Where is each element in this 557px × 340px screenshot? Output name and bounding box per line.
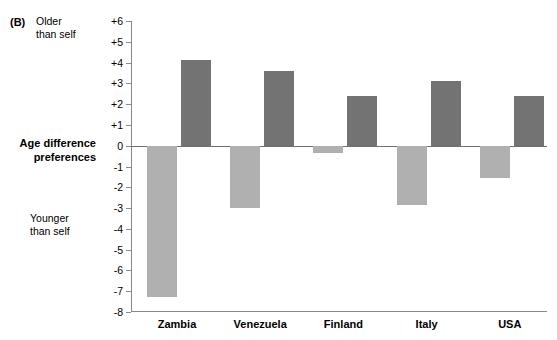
- y-tick-label: +4: [111, 57, 123, 69]
- bar: [181, 60, 211, 145]
- y-tick-label: -8: [114, 306, 123, 318]
- y-tick-mark: [126, 63, 131, 64]
- y-tick-mark: [126, 208, 131, 209]
- bar-group: [474, 21, 547, 312]
- older-annotation-line1: Older: [36, 15, 76, 28]
- y-tick-mark: [126, 104, 131, 105]
- bar: [230, 146, 260, 208]
- bar-group: [141, 21, 214, 312]
- bar-group: [307, 21, 380, 312]
- older-than-self-annotation: Older than self: [36, 15, 76, 41]
- y-tick-mark: [126, 270, 131, 271]
- y-tick-mark: [126, 229, 131, 230]
- bar: [514, 96, 544, 146]
- y-tick-label: +5: [111, 36, 123, 48]
- category-label: Italy: [416, 318, 438, 330]
- older-annotation-line2: than self: [36, 28, 76, 41]
- younger-than-self-annotation: Younger than self: [30, 212, 70, 238]
- y-tick-label: -6: [114, 264, 123, 276]
- bar: [147, 146, 177, 298]
- bar: [480, 146, 510, 178]
- category-label: Zambia: [158, 318, 197, 330]
- category-label: USA: [498, 318, 521, 330]
- bar-group: [224, 21, 297, 312]
- y-tick-mark: [126, 21, 131, 22]
- younger-annotation-line2: than self: [30, 225, 70, 238]
- y-tick-label: 0: [117, 140, 123, 152]
- bar: [397, 146, 427, 205]
- y-tick-label: -4: [114, 223, 123, 235]
- y-tick-label: +6: [111, 15, 123, 27]
- y-tick-mark: [126, 125, 131, 126]
- bar-group: [391, 21, 464, 312]
- y-tick-label: -2: [114, 181, 123, 193]
- y-axis-title-line2: preferences: [0, 150, 96, 164]
- y-tick-mark: [126, 250, 131, 251]
- y-tick-label: +3: [111, 77, 123, 89]
- bar: [264, 71, 294, 146]
- y-axis-title-line1: Age difference: [0, 136, 96, 150]
- plot-area: +6+5+4+3+2+10-1-2-3-4-5-6-7-8: [131, 21, 547, 312]
- bar: [347, 96, 377, 146]
- y-axis-title: Age difference preferences: [0, 136, 96, 164]
- y-tick-label: +1: [111, 119, 123, 131]
- category-label: Finland: [324, 318, 363, 330]
- y-tick-label: -5: [114, 244, 123, 256]
- y-tick-mark: [126, 291, 131, 292]
- panel-label: (B): [10, 16, 25, 28]
- y-tick-label: +2: [111, 98, 123, 110]
- y-tick-label: -7: [114, 285, 123, 297]
- y-tick-mark: [126, 312, 131, 313]
- y-tick-label: -1: [114, 161, 123, 173]
- y-tick-mark: [126, 83, 131, 84]
- y-tick-label: -3: [114, 202, 123, 214]
- y-tick-mark: [126, 42, 131, 43]
- y-tick-mark: [126, 187, 131, 188]
- bar: [431, 81, 461, 145]
- category-label: Venezuela: [234, 318, 287, 330]
- y-tick-mark: [126, 167, 131, 168]
- chart-figure: (B) Older than self Younger than self Ag…: [0, 0, 557, 340]
- younger-annotation-line1: Younger: [30, 212, 70, 225]
- y-axis-line: [131, 21, 132, 312]
- bar: [313, 146, 343, 153]
